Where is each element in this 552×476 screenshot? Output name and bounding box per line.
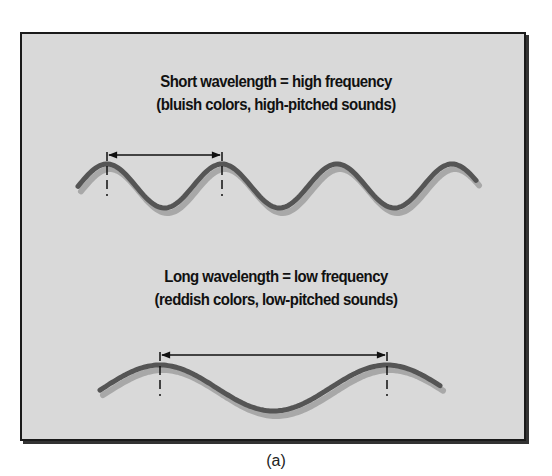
short-wave (78, 164, 479, 213)
long-wave (100, 365, 443, 416)
figure-label: (a) (0, 452, 552, 470)
wave-diagram (0, 0, 552, 476)
